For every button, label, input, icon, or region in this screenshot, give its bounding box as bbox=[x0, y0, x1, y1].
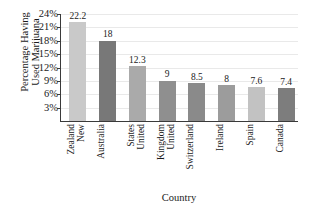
x-axis-tick-label-line: Australia bbox=[97, 124, 107, 159]
bar-value-label: 8.5 bbox=[191, 73, 203, 83]
bar bbox=[188, 83, 205, 121]
x-axis-tick-label-line: New bbox=[77, 124, 87, 142]
bar-value-label: 8 bbox=[224, 75, 229, 85]
bar-group: 18 bbox=[99, 14, 116, 121]
x-axis-tick-labels: NewZealandAustraliaUnitedStatesUnitedKin… bbox=[60, 124, 298, 192]
bar-group: 8 bbox=[218, 14, 235, 121]
bar bbox=[278, 88, 295, 121]
bar bbox=[248, 87, 265, 121]
y-axis-tick-labels: 24%21%18%15%12%9%6%3% bbox=[30, 0, 58, 213]
x-axis-tick-label-line: Ireland bbox=[216, 124, 226, 151]
bar bbox=[69, 22, 86, 121]
y-axis-tick-label: 21% bbox=[30, 22, 58, 33]
x-axis-tick-label-line: Spain bbox=[246, 124, 256, 146]
y-axis-tick-label: 12% bbox=[30, 62, 58, 73]
plot-area: 22.21812.398.587.67.4 bbox=[60, 14, 298, 122]
x-axis-tick-label: UnitedKingdom bbox=[157, 124, 178, 190]
bar-value-label: 22.2 bbox=[70, 12, 87, 22]
bar-group: 9 bbox=[159, 14, 176, 121]
bars: 22.21812.398.587.67.4 bbox=[60, 14, 298, 122]
x-axis-tick-label-line: Kingdom bbox=[157, 124, 167, 160]
y-axis-tick-label: 3% bbox=[30, 102, 58, 113]
bar-value-label: 9 bbox=[165, 70, 170, 80]
bar-group: 22.2 bbox=[69, 14, 86, 121]
bar-chart: Percentage Having Used Marijuana 24%21%1… bbox=[0, 0, 312, 213]
bar-group: 12.3 bbox=[129, 14, 146, 121]
x-axis-tick-label: NewZealand bbox=[67, 124, 88, 190]
y-axis-tick-label: 6% bbox=[30, 89, 58, 100]
y-axis-tick-label: 9% bbox=[30, 76, 58, 87]
x-axis-title: Country bbox=[60, 193, 298, 204]
x-axis-tick-label-line: United bbox=[137, 124, 147, 150]
x-axis-tick-label-line: United bbox=[167, 124, 177, 150]
x-axis-tick-label-line: Canada bbox=[276, 124, 286, 153]
x-axis-tick-label: Spain bbox=[246, 124, 267, 190]
bar-value-label: 12.3 bbox=[129, 56, 146, 66]
bar-group: 7.4 bbox=[278, 14, 295, 121]
y-axis-tick-label: 18% bbox=[30, 36, 58, 47]
bar bbox=[218, 85, 235, 121]
bar-value-label: 18 bbox=[103, 30, 113, 40]
bar bbox=[99, 41, 116, 121]
bar-group: 7.6 bbox=[248, 14, 265, 121]
x-axis-tick-label: UnitedStates bbox=[127, 124, 148, 190]
bar bbox=[159, 81, 176, 121]
y-axis-tick-label: 15% bbox=[30, 49, 58, 60]
x-axis-tick-label: Ireland bbox=[216, 124, 237, 190]
x-axis-tick-label-line: Switzerland bbox=[186, 124, 196, 169]
bar-value-label: 7.6 bbox=[250, 77, 262, 87]
x-axis-tick-label: Australia bbox=[97, 124, 118, 190]
y-axis-title-line-1: Percentage Having bbox=[19, 12, 30, 92]
y-axis-tick-label: 24% bbox=[30, 9, 58, 20]
bar bbox=[129, 66, 146, 121]
x-axis-tick-label-line: Zealand bbox=[67, 124, 77, 155]
bar-group: 8.5 bbox=[188, 14, 205, 121]
x-axis-tick-label: Switzerland bbox=[186, 124, 207, 190]
bar-value-label: 7.4 bbox=[280, 78, 292, 88]
x-axis-tick-label: Canada bbox=[276, 124, 297, 190]
x-axis-tick-label-line: States bbox=[127, 124, 137, 147]
